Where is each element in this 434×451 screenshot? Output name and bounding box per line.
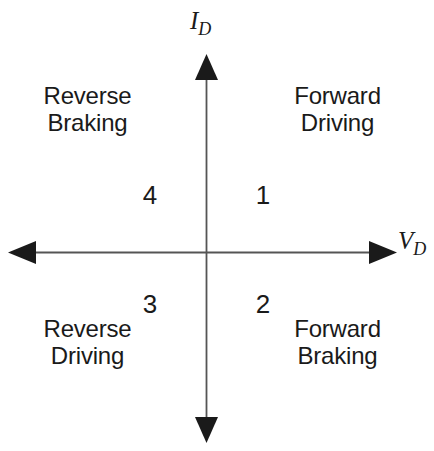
quadrant-2-label: Forward Braking bbox=[250, 315, 425, 369]
quadrant-3-label: Reverse Driving bbox=[0, 315, 175, 369]
quadrant-number-3: 3 bbox=[135, 291, 165, 317]
quadrant-1-label-line2: Driving bbox=[250, 109, 425, 136]
axes-graphic bbox=[0, 0, 434, 451]
x-axis-subscript: D bbox=[413, 239, 426, 259]
x-axis-label: VD bbox=[398, 228, 426, 258]
x-axis-symbol: V bbox=[398, 227, 413, 254]
quadrant-4-label: Reverse Braking bbox=[0, 82, 175, 136]
axis-arrow-up-icon bbox=[195, 54, 218, 80]
y-axis-subscript: D bbox=[198, 19, 211, 39]
quadrant-number-1: 1 bbox=[248, 182, 278, 208]
quadrant-number-4: 4 bbox=[135, 182, 165, 208]
quadrant-2-label-line2: Braking bbox=[250, 342, 425, 369]
quadrant-2-label-line1: Forward bbox=[250, 315, 425, 342]
quadrant-4-label-line1: Reverse bbox=[0, 82, 175, 109]
quadrant-3-label-line2: Driving bbox=[0, 342, 175, 369]
axis-arrow-down-icon bbox=[195, 417, 218, 443]
quadrant-3-label-line1: Reverse bbox=[0, 315, 175, 342]
quadrant-number-2: 2 bbox=[248, 291, 278, 317]
quadrant-diagram: ID VD Reverse Braking Forward Driving Re… bbox=[0, 0, 434, 451]
y-axis-label: ID bbox=[190, 8, 211, 38]
quadrant-4-label-line2: Braking bbox=[0, 109, 175, 136]
axis-arrow-left-icon bbox=[8, 241, 36, 264]
quadrant-1-label: Forward Driving bbox=[250, 82, 425, 136]
quadrant-1-label-line1: Forward bbox=[250, 82, 425, 109]
axis-arrow-right-icon bbox=[369, 241, 397, 264]
